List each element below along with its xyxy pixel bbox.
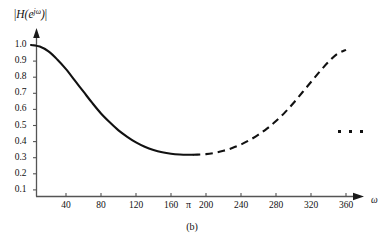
x-tick-label: 200 (192, 201, 220, 211)
y-axis-title-close-bar: | (45, 8, 47, 20)
y-tick-label: 0.8 (6, 72, 27, 82)
y-axis-arrowhead (33, 28, 40, 38)
axis-lines (33, 28, 364, 200)
y-axis-title-function: H(e (16, 8, 33, 20)
y-tick-label: 0.2 (6, 169, 27, 179)
continuation-dot-1 (338, 130, 341, 133)
x-tick-label: 80 (87, 201, 115, 211)
y-tick-label: 0.1 (6, 185, 27, 195)
x-axis-arrowhead (353, 193, 364, 200)
x-axis-title: ω (371, 196, 378, 206)
figure-caption: (b) (0, 222, 384, 232)
y-tick-label: 0.6 (6, 104, 27, 114)
continuation-dot-2 (349, 130, 352, 133)
continuation-dots (338, 130, 368, 138)
continuation-dot-3 (360, 130, 363, 133)
curve-solid-segment (31, 45, 193, 155)
figure-magnitude-response: |H(ejω)| 1.00.90.80.70.60.50.40.30.20.1 … (0, 0, 384, 244)
y-tick-label: 0.3 (6, 153, 27, 163)
x-tick-label: 320 (297, 201, 325, 211)
y-tick-label: 0.4 (6, 137, 27, 147)
y-tick-label: 0.7 (6, 88, 27, 98)
x-tick-label: 280 (262, 201, 290, 211)
x-tick-label: 40 (52, 201, 80, 211)
x-tick-label: 120 (122, 201, 150, 211)
curve-dashed-segment (193, 50, 346, 155)
y-axis-title: |H(ejω)| (14, 8, 47, 20)
y-tick-label: 0.5 (6, 121, 27, 131)
x-tick-label: 360 (332, 201, 360, 211)
y-axis-title-exponent: jω (34, 7, 41, 16)
x-tick-label: 240 (227, 201, 255, 211)
y-tick-label: 0.9 (6, 56, 27, 66)
y-tick-label: 1.0 (6, 40, 27, 50)
